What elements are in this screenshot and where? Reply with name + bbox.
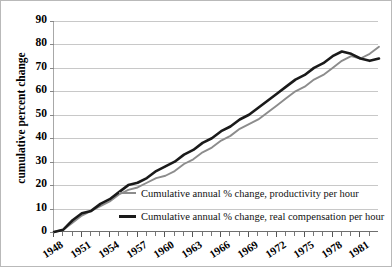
x-tick-mark-1968 — [239, 232, 240, 236]
x-tick-mark-1974 — [294, 232, 295, 236]
y-tick-mark-30 — [50, 162, 54, 163]
x-tick-mark-1977 — [322, 232, 323, 236]
legend-swatch-productivity — [119, 192, 136, 194]
chart-figure: cumulative percent change 01020304050607… — [0, 0, 392, 267]
x-tick-label-1966: 1966 — [207, 238, 232, 260]
y-tick-label-10: 10 — [21, 201, 47, 213]
y-tick-label-30: 30 — [21, 154, 47, 166]
x-tick-label-1951: 1951 — [68, 238, 93, 260]
y-tick-label-0: 0 — [21, 224, 47, 236]
x-tick-mark-1982 — [369, 232, 370, 236]
x-tick-mark-1955 — [118, 232, 119, 236]
y-tick-mark-80 — [50, 44, 54, 45]
x-tick-mark-1980 — [350, 232, 351, 236]
x-tick-mark-1961 — [174, 232, 175, 236]
x-tick-label-1954: 1954 — [96, 238, 121, 260]
y-tick-mark-90 — [50, 21, 54, 22]
x-tick-mark-1953 — [99, 232, 100, 236]
y-tick-label-20: 20 — [21, 177, 47, 189]
x-tick-label-1981: 1981 — [346, 238, 371, 260]
y-axis-tick-labels: 0102030405060708090 — [17, 1, 47, 267]
x-tick-mark-1956 — [127, 232, 128, 236]
legend-swatch-compensation — [119, 215, 136, 218]
y-tick-mark-10 — [50, 209, 54, 210]
x-tick-mark-1979 — [341, 232, 342, 236]
x-tick-mark-1965 — [211, 232, 212, 236]
y-tick-mark-60 — [50, 91, 54, 92]
x-axis-tick-labels: 1948195119541957196019631966196919721975… — [53, 237, 392, 267]
x-tick-mark-1958 — [146, 232, 147, 236]
y-tick-label-90: 90 — [21, 13, 47, 25]
x-tick-mark-1971 — [267, 232, 268, 236]
x-tick-mark-1967 — [229, 232, 230, 236]
x-tick-mark-1959 — [155, 232, 156, 236]
x-tick-label-1969: 1969 — [235, 238, 260, 260]
x-tick-label-1978: 1978 — [319, 238, 344, 260]
y-tick-label-70: 70 — [21, 60, 47, 72]
x-tick-mark-1962 — [183, 232, 184, 236]
x-tick-label-1975: 1975 — [291, 238, 316, 260]
x-tick-label-1963: 1963 — [179, 238, 204, 260]
x-tick-label-1957: 1957 — [124, 238, 149, 260]
x-tick-mark-1970 — [257, 232, 258, 236]
legend-label-compensation: Cumulative annual % change, real compens… — [141, 211, 384, 222]
y-tick-mark-40 — [50, 138, 54, 139]
y-tick-label-40: 40 — [21, 130, 47, 142]
x-tick-mark-1973 — [285, 232, 286, 236]
y-tick-mark-50 — [50, 115, 54, 116]
legend-label-productivity: Cumulative annual % change, productivity… — [141, 188, 359, 199]
x-tick-mark-1964 — [202, 232, 203, 236]
x-tick-mark-1952 — [90, 232, 91, 236]
y-tick-label-50: 50 — [21, 107, 47, 119]
y-tick-label-80: 80 — [21, 36, 47, 48]
y-tick-mark-70 — [50, 68, 54, 69]
legend-item-compensation: Cumulative annual % change, real compens… — [119, 207, 384, 225]
x-tick-mark-1949 — [62, 232, 63, 236]
x-tick-mark-1976 — [313, 232, 314, 236]
x-tick-label-1972: 1972 — [263, 238, 288, 260]
x-tick-label-1960: 1960 — [151, 238, 176, 260]
chart-legend: Cumulative annual % change, productivity… — [119, 184, 381, 226]
legend-item-productivity: Cumulative annual % change, productivity… — [119, 184, 359, 202]
y-tick-mark-20 — [50, 185, 54, 186]
y-tick-label-60: 60 — [21, 83, 47, 95]
x-tick-mark-1950 — [72, 232, 73, 236]
